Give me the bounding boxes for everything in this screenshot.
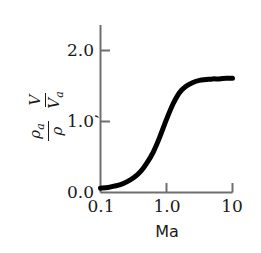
x-axis-title: Ma: [100, 222, 234, 241]
x-tick-label-2: 10: [210, 198, 254, 215]
y-axis-title: ρa ρ , V Va: [0, 60, 102, 170]
x-tick-label-0: 0.1: [79, 198, 123, 215]
y-tick-label-2: 2.0: [52, 42, 94, 59]
v-subscript-a: a: [53, 91, 66, 97]
y-axis-rho-a: ρa: [28, 121, 48, 140]
rho-symbol: ρ: [26, 130, 44, 139]
y-axis-v: V: [28, 93, 46, 108]
y-axis-separator: ,: [83, 114, 102, 119]
y-axis-rho: ρ: [49, 125, 66, 138]
y-axis-fraction-rho: ρa ρ: [28, 121, 65, 140]
v-symbol: V: [45, 98, 63, 109]
y-axis-fraction-v: V Va: [28, 89, 65, 110]
y-axis-v-a: Va: [46, 89, 65, 110]
data-series-line: [101, 78, 233, 188]
chart-figure: 2.0 1.0 0.0 0.1 1.0 10 Ma ρa ρ , V Va: [0, 0, 261, 253]
x-tick-label-1: 1.0: [145, 198, 189, 215]
rho-subscript-a: a: [34, 123, 47, 129]
